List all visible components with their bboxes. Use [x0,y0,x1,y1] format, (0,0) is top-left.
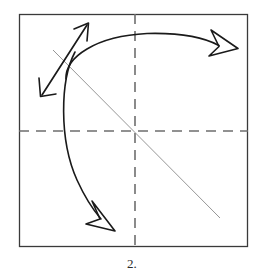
fold-diagram-canvas [0,0,264,279]
origami-step-figure: 2. [0,0,264,279]
diagonal-crease-line [53,50,220,218]
fold-down-arrow-shaft [64,52,101,219]
fold-over-arrow-shaft [66,33,219,79]
figure-caption: 2. [0,256,264,272]
